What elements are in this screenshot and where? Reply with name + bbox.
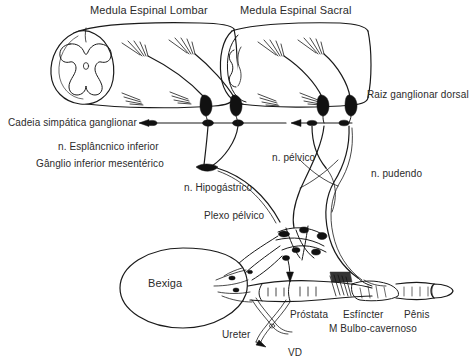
label-lumbar-cord: Medula Espinal Lombar xyxy=(90,4,208,16)
sacral-dorsal-rootlets xyxy=(258,38,324,56)
label-inferior-mesenteric-ganglion: Gânglio inferior mesentérico xyxy=(36,158,164,169)
label-splanchnic-nerve: n. Esplâncnico inferior xyxy=(58,141,159,152)
pudendal-nerve xyxy=(326,126,362,280)
label-pelvic-plexus: Plexo pélvico xyxy=(204,210,264,221)
bladder xyxy=(120,248,253,328)
label-sympathetic-chain: Cadeia simpática ganglionar xyxy=(8,117,137,128)
dorsal-root-ganglia xyxy=(200,95,357,116)
sacral-ventral-rootlets xyxy=(258,93,321,106)
label-sacral-cord: Medula Espinal Sacral xyxy=(240,4,352,16)
label-vas-deferens: VD xyxy=(288,347,302,358)
nerve-crossings xyxy=(300,160,338,188)
spinal-nerve-trunks xyxy=(148,54,350,97)
lumbar-dorsal-rootlets xyxy=(122,38,195,56)
pelvic-nerve xyxy=(293,126,335,228)
label-hypogastric-nerve: n. Hipogástrico xyxy=(184,182,252,193)
inferior-mesenteric-ganglion xyxy=(196,164,218,171)
label-prostate: Próstata xyxy=(290,309,328,320)
label-pelvic-nerve: n. pélvico xyxy=(272,152,315,163)
label-pudendal-nerve: n. pudendo xyxy=(371,168,422,179)
label-bladder: Bexiga xyxy=(148,277,182,289)
anatomy-diagram: Medula Espinal Lombar Medula Espinal Sac… xyxy=(0,0,472,363)
lumbar-ventral-rootlets xyxy=(122,92,191,105)
lumbar-cord-segment xyxy=(51,23,237,108)
label-bulbocavernosus: M Bulbo-cavernoso xyxy=(329,323,417,334)
label-sphincter: Esfíncter xyxy=(343,309,383,320)
sympathetic-chain xyxy=(139,116,352,127)
ureter-vas-deferens xyxy=(252,298,292,347)
label-penis: Pênis xyxy=(404,309,430,320)
urethra-prostate-penis xyxy=(248,260,453,302)
lumbar-splanchnic-nerves xyxy=(204,126,238,166)
label-dorsal-root-ganglion: Raiz ganglionar dorsal xyxy=(367,89,469,100)
label-ureter: Ureter xyxy=(222,329,250,340)
